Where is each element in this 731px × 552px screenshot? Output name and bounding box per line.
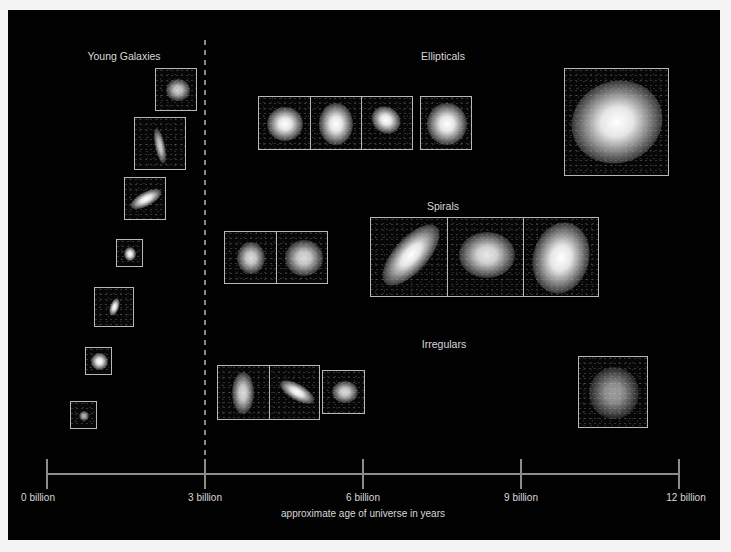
tick-6 bbox=[362, 459, 364, 489]
dashed-divider-3-billion bbox=[204, 40, 206, 458]
label-irregulars: Irregulars bbox=[422, 338, 466, 350]
tick-label-9: 9 billion bbox=[504, 492, 538, 503]
tick-label-0: 0 billion bbox=[21, 492, 55, 503]
axis-title: approximate age of universe in years bbox=[281, 508, 445, 519]
young-galaxy-image-7 bbox=[70, 401, 97, 429]
spirals-strip-small bbox=[224, 231, 328, 284]
label-spirals: Spirals bbox=[427, 200, 459, 212]
tick-0 bbox=[46, 459, 48, 489]
young-galaxy-image-3 bbox=[124, 177, 166, 220]
tick-9 bbox=[520, 459, 522, 489]
tick-3 bbox=[204, 459, 206, 489]
irregular-image-large bbox=[578, 356, 648, 428]
spirals-strip-large bbox=[370, 217, 599, 297]
young-galaxy-image-6 bbox=[85, 347, 112, 375]
tick-12 bbox=[678, 459, 680, 489]
irregulars-strip bbox=[217, 365, 320, 420]
young-galaxy-image-1 bbox=[155, 68, 197, 111]
elliptical-image-4 bbox=[420, 96, 472, 150]
ellipticals-strip bbox=[258, 96, 413, 150]
irregular-image-3 bbox=[322, 370, 365, 414]
label-ellipticals: Ellipticals bbox=[421, 50, 465, 62]
tick-label-6: 6 billion bbox=[346, 492, 380, 503]
tick-label-3: 3 billion bbox=[188, 492, 222, 503]
young-galaxy-image-2 bbox=[134, 117, 186, 170]
tick-label-12: 12 billion bbox=[666, 492, 705, 503]
elliptical-image-large bbox=[564, 68, 669, 176]
young-galaxy-image-4 bbox=[116, 239, 143, 267]
label-young-galaxies: Young Galaxies bbox=[87, 50, 160, 62]
young-galaxy-image-5 bbox=[94, 287, 134, 327]
